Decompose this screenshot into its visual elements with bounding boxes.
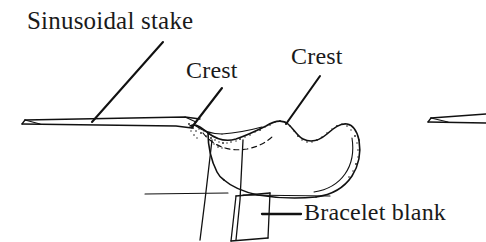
leader-line-sinusoidal-stake — [92, 42, 163, 122]
leader-line-crest-right — [286, 76, 320, 124]
support-post — [200, 140, 243, 240]
label-crest-right: Crest — [291, 44, 343, 68]
sinusoidal-stake-bar — [22, 117, 200, 128]
label-sinusoidal-stake: Sinusoidal stake — [27, 8, 193, 33]
label-crest-left: Crest — [186, 58, 238, 82]
label-bracelet-blank: Bracelet blank — [304, 200, 446, 224]
sinusoidal-form — [190, 121, 360, 198]
stake-tip-right — [428, 114, 486, 123]
figure-root: Sinusoidal stake Crest Crest Bracelet bl… — [0, 0, 486, 242]
leader-line-crest-left — [192, 88, 222, 127]
